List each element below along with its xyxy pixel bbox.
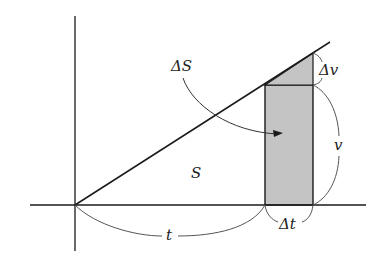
label-delta-v: Δv [318, 61, 339, 79]
label-v: v [334, 136, 343, 154]
label-delta-s: ΔS [170, 57, 192, 75]
v-brace-top [313, 85, 339, 136]
shaded-rectangle [265, 85, 313, 205]
label-s: S [191, 164, 201, 182]
t-brace-right [178, 205, 265, 236]
label-delta-t: Δt [278, 215, 297, 233]
delta-t-brace-left [265, 205, 278, 222]
delta-t-brace-right [302, 205, 313, 222]
velocity-time-diagram: ΔS S Δv v Δt t [0, 0, 390, 268]
label-t: t [166, 226, 173, 244]
delta-v-brace-bottom [313, 78, 322, 85]
v-brace-bottom [313, 156, 339, 205]
t-brace-left [75, 205, 162, 236]
